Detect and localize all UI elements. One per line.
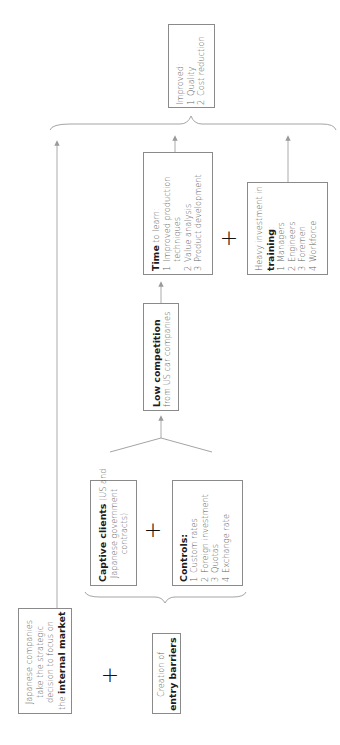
start-line: decision to focus on [45,614,56,710]
low-competition-title: Low competition [151,312,162,407]
training-item: 4Workforce [308,186,319,271]
start-node-box: Japanese companies take the strategic de… [18,608,72,714]
bottom-brace [85,592,246,603]
outcome-item: 2Cost reduction [196,36,207,105]
top-brace [50,116,336,130]
fork-lines [110,438,212,452]
outcome-box: Improved: 1Quality 2Cost reduction [168,24,215,108]
captive-line: Japanese government [109,485,120,582]
time-title: Time to learn: [150,174,162,271]
time-to-learn-box: Time to learn: 1Improved production tech… [143,152,213,275]
time-item: 2Value analysis [183,174,194,271]
training-item: 1Managers [276,186,287,271]
low-competition-subtitle: from US car companies [162,312,173,407]
controls-item: 1Custom rates [189,494,200,582]
captive-clients-box: Captive clients (US and Japanese governm… [90,480,137,586]
entry-barriers-line: Creation of [156,638,167,711]
entry-barriers-title: entry barriers [167,638,178,711]
time-item-continuation: techniques [172,174,183,271]
start-line: Japanese companies [24,614,35,710]
outcome-title: Improved: [175,36,186,105]
time-item: 1Improved production [162,174,173,271]
time-item: 3Product development [193,174,204,271]
training-title: training: [265,186,277,271]
plus-icon: + [99,664,121,686]
outcome-item: 1Quality [186,36,197,105]
plus-icon: + [218,227,240,249]
training-item: 2Engineers [287,186,298,271]
controls-item: 4Exchange rate [221,494,232,582]
captive-line: contracts) [119,485,130,582]
controls-item: 2Foreign investment [200,494,211,582]
training-item: 3Foremen [297,186,308,271]
controls-item: 3Quotas [210,494,221,582]
training-box: Heavy investment in training: 1Managers … [247,182,328,275]
controls-title: Controls: [178,494,189,582]
training-intro: Heavy investment in [254,186,265,271]
low-competition-box: Low competition from US car companies [143,303,179,411]
start-line: the internal market [56,614,68,710]
controls-box: Controls: 1Custom rates 2Foreign investm… [172,480,243,586]
plus-icon: + [142,519,164,541]
entry-barriers-box: Creation of entry barriers [152,633,181,714]
start-line: take the strategic [35,614,46,710]
captive-title: Captive clients (US and [97,485,109,582]
